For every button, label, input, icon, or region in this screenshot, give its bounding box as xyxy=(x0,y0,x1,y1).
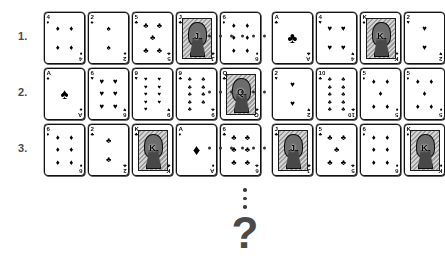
card-pip-icon: ♥ xyxy=(422,44,427,51)
card-corner-index: 2♠ xyxy=(91,14,94,25)
card-corner-index: 9♥ xyxy=(167,107,170,118)
playing-card[interactable]: 2♥2♥♥♥ xyxy=(272,68,313,120)
ellipsis-dot xyxy=(241,34,244,37)
playing-card[interactable]: A♦A♦♦ xyxy=(176,124,217,176)
card-pip-icon: ♣ xyxy=(327,159,332,166)
playing-card[interactable]: 5♣5♣♣♣♣♣♣ xyxy=(316,124,357,176)
ellipsis-dot xyxy=(252,34,255,37)
card-pip-icon: ♣ xyxy=(288,31,298,45)
card-pip-icon: ♣ xyxy=(328,106,332,112)
card-corner-index: 6♦ xyxy=(79,163,82,174)
card-pip-grid: ♥♥♥♥♥♥ xyxy=(95,75,122,113)
card-pip-icon: ♦ xyxy=(69,146,73,153)
playing-card[interactable]: J♣J♣J xyxy=(272,124,313,176)
card-corner-index: A♣ xyxy=(306,51,310,62)
card-pip-icon: ♣ xyxy=(341,159,346,166)
card-suit-icon: ♦ xyxy=(47,20,50,25)
card-suit-icon: ♣ xyxy=(91,132,95,137)
card-corner-index: 6♦ xyxy=(395,163,398,174)
playing-card[interactable]: 2♥2♥♥♥ xyxy=(404,12,445,64)
playing-card[interactable]: 9♣9♣♣♣♣♣♣♣♣♣♣ xyxy=(176,68,217,120)
playing-card[interactable]: 2♣2♣♣♣ xyxy=(88,124,129,176)
playing-card[interactable]: K♠K♠K xyxy=(360,12,401,64)
card-pip-icon: ♥ xyxy=(99,90,104,97)
card-group-right: J♣J♣J5♣5♣♣♣♣♣♣6♦6♦♦♦♦♦♦♦K♦K♦K xyxy=(272,124,445,176)
card-pip-icon: ♣ xyxy=(201,91,205,97)
ellipsis-dot xyxy=(263,90,266,93)
puzzle-row: 3.6♦6♦♦♦♦♦♦♦2♣2♣♣♣K♣K♣KA♦A♦♦6♣6♣♣♣♣♣♣♣J♣… xyxy=(0,120,428,176)
card-group-right: 2♥2♥♥♥10♣10♣♣♣♣♣♣♣♣♣♣♣5♦5♦♦♦♦♦♦5♦5♦♦♦♦♦♦ xyxy=(272,68,445,120)
card-corner-index: 6♣ xyxy=(255,163,259,174)
card-pip-icon: ♦ xyxy=(416,103,420,110)
card-pip-icon: ♣ xyxy=(188,84,192,90)
ellipsis-dot xyxy=(263,34,266,37)
card-pip-icon: ♦ xyxy=(56,159,60,166)
card-pip-icon: ♣ xyxy=(341,91,345,97)
playing-card[interactable]: 4♥4♥♥♥♥♥ xyxy=(316,12,357,64)
playing-card[interactable]: 2♠2♠♠♠ xyxy=(88,12,129,64)
card-pip-grid: ♦ xyxy=(183,131,210,169)
card-pip-icon: ♦ xyxy=(245,47,249,54)
playing-card[interactable]: K♣K♣K xyxy=(132,124,173,176)
ellipsis-dot xyxy=(230,146,233,149)
playing-card[interactable]: 5♦5♦♦♦♦♦♦ xyxy=(360,68,401,120)
card-pip-icon: ♦ xyxy=(385,103,389,110)
playing-card[interactable]: 5♣5♣♣♣♣♣♣ xyxy=(132,12,173,64)
playing-card[interactable]: 6♦6♦♦♦♦♦♦♦ xyxy=(44,124,85,176)
horizontal-ellipsis-icon xyxy=(208,34,266,37)
card-pip-grid: ♦♦♦♦♦♦ xyxy=(367,131,394,169)
card-suit-icon: ♣ xyxy=(319,132,323,137)
playing-card[interactable]: A♣A♣♣ xyxy=(272,12,313,64)
card-pip-grid: ♦♦♦♦ xyxy=(51,19,78,57)
face-card-letter: K xyxy=(149,143,156,153)
card-pip-icon: ♦ xyxy=(385,146,389,153)
card-corner-index: 5♣ xyxy=(351,163,355,174)
playing-card[interactable]: Q♣Q♣Q xyxy=(220,68,261,120)
card-pip-grid: ♣ xyxy=(279,19,306,57)
playing-card[interactable]: 6♣6♣♣♣♣♣♣♣ xyxy=(220,124,261,176)
card-suit-icon: ♦ xyxy=(395,107,398,112)
ellipsis-dot xyxy=(243,188,247,192)
playing-card[interactable]: 6♦6♦♦♦♦♦♦♦ xyxy=(360,124,401,176)
card-pip-icon: ♣ xyxy=(328,76,332,82)
card-suit-icon: ♦ xyxy=(79,51,82,56)
card-pip-grid: ♠ xyxy=(51,75,78,113)
card-pip-icon: ♣ xyxy=(341,106,345,112)
card-corner-index: 2♥ xyxy=(407,14,410,25)
card-pip-grid: ♦♦♦♦♦ xyxy=(367,75,394,113)
ellipsis-dot xyxy=(252,146,255,149)
card-corner-index: 9♣ xyxy=(179,70,183,81)
playing-card[interactable]: K♦K♦K xyxy=(404,124,445,176)
card-suit-icon: ♠ xyxy=(123,51,126,56)
card-corner-index: 5♣ xyxy=(135,14,139,25)
card-suit-icon: ♦ xyxy=(407,76,410,81)
card-pip-icon: ♥ xyxy=(290,81,295,88)
card-pip-grid: ♣♣♣♣♣ xyxy=(323,131,350,169)
card-corner-index: A♠ xyxy=(78,107,82,118)
card-pip-icon: ♠ xyxy=(61,87,69,101)
card-pip-icon: ♥ xyxy=(422,25,427,32)
card-corner-index: 4♥ xyxy=(351,51,354,62)
playing-card[interactable]: 10♣10♣♣♣♣♣♣♣♣♣♣♣ xyxy=(316,68,357,120)
playing-card[interactable]: 4♦4♦♦♦♦♦ xyxy=(44,12,85,64)
card-pip-icon: ♣ xyxy=(201,84,205,90)
playing-card[interactable]: J♣J♣J xyxy=(176,12,217,64)
card-pip-icon: ♦ xyxy=(56,25,60,32)
card-suit-icon: ♣ xyxy=(123,163,127,168)
playing-card[interactable]: 6♦6♦♦♦♦♦♦♦ xyxy=(220,12,261,64)
playing-card[interactable]: 6♥6♥♥♥♥♥♥♥ xyxy=(88,68,129,120)
card-corner-index: 5♣ xyxy=(167,51,171,62)
card-pip-icon: ♦ xyxy=(69,25,73,32)
ellipsis-dot xyxy=(219,90,222,93)
playing-card[interactable]: 9♥9♥♥♥♥♥♥♥♥♥♥ xyxy=(132,68,173,120)
playing-card[interactable]: A♠A♠♠ xyxy=(44,68,85,120)
card-suit-icon: ♠ xyxy=(91,20,94,25)
playing-card[interactable]: 5♦5♦♦♦♦♦♦ xyxy=(404,68,445,120)
card-corner-index: 2♥ xyxy=(439,51,442,62)
card-pip-icon: ♦ xyxy=(245,22,249,29)
card-pip-icon: ♦ xyxy=(56,134,60,141)
face-card-artwork: Q xyxy=(226,74,256,115)
card-suit-icon: ♥ xyxy=(307,107,310,112)
card-suit-icon: ♥ xyxy=(91,76,94,81)
